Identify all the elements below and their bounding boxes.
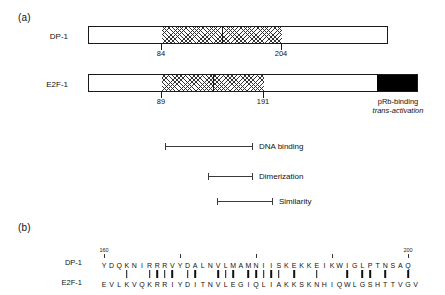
residue-dp1: A: [193, 262, 198, 269]
residue-e2f1: L: [353, 281, 357, 288]
residue-e2f1: E: [231, 281, 236, 288]
residue-e2f1: A: [276, 281, 281, 288]
alignment-scale-tick: [332, 254, 333, 258]
residue-e2f1: Q: [253, 281, 258, 288]
residue-dp1: E: [314, 262, 319, 269]
residue-dp1: K: [299, 262, 304, 269]
residue-dp1: D: [185, 262, 190, 269]
identity-bar: [164, 270, 166, 278]
residue-dp1: P: [368, 262, 373, 269]
residue-dp1: Y: [178, 262, 183, 269]
identity-bar: [278, 270, 280, 278]
alignment-identity-bars: [0, 0, 445, 295]
residue-e2f1: L: [224, 281, 228, 288]
range-line-similarity: [217, 201, 272, 202]
range-line-dimerization: [208, 176, 253, 177]
residue-dp1: N: [383, 262, 388, 269]
range-label-dna-binding: DNA binding: [259, 142, 303, 151]
residue-e2f1: H: [375, 281, 380, 288]
residue-dp1: Q: [405, 262, 410, 269]
residue-e2f1: H: [322, 281, 327, 288]
residue-dp1: N: [132, 262, 137, 269]
residue-e2f1: D: [185, 281, 190, 288]
residue-dp1: S: [276, 262, 281, 269]
panel-a-label: (a): [18, 12, 31, 23]
alignment-row-dp1: YDQKNIRRRVYDALNVLMAMNIISKEKKEIKWIGLPTNSA…: [0, 0, 445, 295]
identity-bar: [156, 270, 158, 278]
identity-bar: [270, 270, 272, 278]
identity-bar: [149, 270, 151, 278]
residue-dp1: E: [292, 262, 297, 269]
residue-dp1: Q: [116, 262, 121, 269]
residue-e2f1: I: [331, 281, 333, 288]
residue-e2f1: V: [132, 281, 137, 288]
alignment-scale-tick: [104, 254, 105, 258]
range-line-dna-binding: [165, 146, 253, 147]
residue-dp1: I: [346, 262, 348, 269]
e2f1-domain-divider: [213, 75, 214, 91]
residue-dp1: I: [141, 262, 143, 269]
range-cap-left-similarity: [217, 198, 218, 205]
residue-e2f1: I: [194, 281, 196, 288]
protein-name-dp1: DP-1: [8, 32, 68, 41]
dp1-domain-divider: [222, 27, 223, 43]
identity-bar: [369, 270, 371, 278]
residue-e2f1: R: [162, 281, 167, 288]
protein-bar-e2f1: [88, 74, 418, 92]
range-label-similarity: Similarity: [279, 197, 311, 206]
residue-e2f1: V: [216, 281, 221, 288]
alignment-row-name-e2f1: E2F-1: [40, 278, 82, 287]
residue-dp1: A: [398, 262, 403, 269]
alignment-scale: 160200: [0, 0, 445, 295]
residue-dp1: V: [170, 262, 175, 269]
residue-dp1: T: [375, 262, 379, 269]
identity-bar: [172, 270, 174, 278]
residue-e2f1: K: [307, 281, 312, 288]
identity-bar: [263, 270, 265, 278]
residue-e2f1: Y: [178, 281, 183, 288]
identity-bar: [194, 270, 196, 278]
residue-dp1: L: [224, 262, 228, 269]
residue-e2f1: S: [299, 281, 304, 288]
residue-e2f1: V: [109, 281, 114, 288]
residue-dp1: N: [208, 262, 213, 269]
residue-e2f1: T: [383, 281, 387, 288]
residue-e2f1: R: [155, 281, 160, 288]
prb-binding-label: pRb-binding: [373, 97, 424, 106]
residue-dp1: R: [162, 262, 167, 269]
alignment-scale-number: 160: [99, 247, 108, 253]
residue-dp1: Y: [102, 262, 107, 269]
residue-dp1: I: [270, 262, 272, 269]
residue-e2f1: S: [368, 281, 373, 288]
residue-dp1: D: [109, 262, 114, 269]
identity-bar: [126, 270, 128, 278]
residue-e2f1: G: [360, 281, 365, 288]
residue-e2f1: K: [147, 281, 152, 288]
alignment-scale-tick: [256, 254, 257, 258]
residue-e2f1: I: [247, 281, 249, 288]
residue-e2f1: V: [398, 281, 403, 288]
alignment-scale-tick: [180, 254, 181, 258]
residue-dp1: V: [216, 262, 221, 269]
residue-e2f1: G: [238, 281, 243, 288]
residue-e2f1: N: [314, 281, 319, 288]
residue-dp1: W: [336, 262, 343, 269]
residue-e2f1: G: [405, 281, 410, 288]
prb-binding-annotation: pRb-binding trans-activation: [373, 97, 424, 115]
e2f1-start-number: 89: [157, 97, 165, 106]
alignment-row-name-dp1: DP-1: [40, 258, 82, 267]
identity-bar: [187, 270, 189, 278]
residue-dp1: N: [253, 262, 258, 269]
residue-dp1: R: [147, 262, 152, 269]
range-cap-left-dna-binding: [165, 143, 166, 150]
residue-dp1: K: [330, 262, 335, 269]
dp1-end-number: 204: [275, 49, 288, 58]
identity-bar: [384, 270, 386, 278]
residue-dp1: A: [238, 262, 243, 269]
residue-e2f1: K: [284, 281, 289, 288]
residue-e2f1: E: [102, 281, 107, 288]
identity-bar: [232, 270, 234, 278]
figure-root: (a) DP-1 84 204 E2F-1 89 191 pRb-binding…: [0, 0, 445, 295]
residue-e2f1: N: [208, 281, 213, 288]
alignment-scale-number: 200: [403, 247, 412, 253]
